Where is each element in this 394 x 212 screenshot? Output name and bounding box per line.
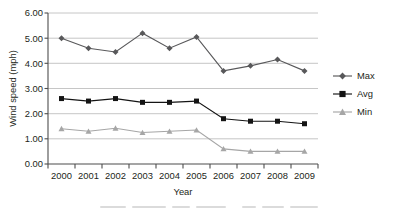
y-tick-label: 4.00 [25,58,43,69]
legend-label-avg: Avg [357,88,373,99]
square-marker-icon [194,99,199,104]
y-axis [45,13,49,164]
x-tick-label: 2007 [240,170,261,181]
x-tick-label: 2000 [51,170,72,181]
diamond-marker-icon [248,63,254,69]
legend-entry-max[interactable]: Max [333,70,375,81]
series-line-avg [62,99,305,124]
diamond-marker-icon [275,57,281,63]
diamond-marker-icon [59,35,65,41]
square-marker-icon [140,100,145,105]
y-tick-label: 5.00 [25,33,43,44]
square-marker-icon [86,99,91,104]
data-series-layer [59,30,308,154]
square-marker-icon [113,96,118,101]
legend: Max Avg Min [333,70,375,117]
diamond-marker-icon [302,68,308,74]
x-tick-label: 2002 [105,170,126,181]
x-tick-label: 2004 [159,170,180,181]
square-marker-icon [302,121,307,126]
diamond-marker-icon [339,73,346,80]
x-tick-label: 2006 [213,170,234,181]
y-axis-title: Wind speed (mph) [7,50,18,127]
legend-entry-min[interactable]: Min [333,106,372,117]
x-axis-tick-labels: 2000 2001 2002 2003 2004 2005 2006 2007 … [51,170,315,181]
series-line-min [62,128,305,151]
series-line-max [62,33,305,71]
series-max [59,30,308,74]
square-marker-icon [59,96,64,101]
x-tick-label: 2005 [186,170,207,181]
x-tick-label: 2009 [294,170,315,181]
series-avg [59,96,307,126]
square-marker-icon [275,119,280,124]
square-marker-icon [221,116,226,121]
wind-speed-line-chart: 6.00 5.00 4.00 3.00 2.00 1.00 0.00 [0,0,394,212]
y-axis-tick-labels: 6.00 5.00 4.00 3.00 2.00 1.00 0.00 [25,7,43,169]
diamond-marker-icon [86,45,92,51]
x-axis [48,164,318,169]
chart-canvas: 6.00 5.00 4.00 3.00 2.00 1.00 0.00 [0,0,394,212]
square-marker-icon [167,100,172,105]
square-marker-icon [339,91,345,97]
x-tick-label: 2001 [78,170,99,181]
legend-label-min: Min [357,106,372,117]
y-tick-label: 3.00 [25,83,43,94]
diamond-marker-icon [167,45,173,51]
legend-entry-avg[interactable]: Avg [333,88,373,99]
y-tick-label: 0.00 [25,158,43,169]
square-marker-icon [248,119,253,124]
y-tick-label: 2.00 [25,108,43,119]
y-tick-label: 6.00 [25,7,43,18]
x-tick-label: 2008 [267,170,288,181]
series-min [59,125,308,153]
x-axis-title: Year [174,186,193,197]
y-tick-label: 1.00 [25,133,43,144]
x-tick-label: 2003 [132,170,153,181]
legend-label-max: Max [357,70,375,81]
